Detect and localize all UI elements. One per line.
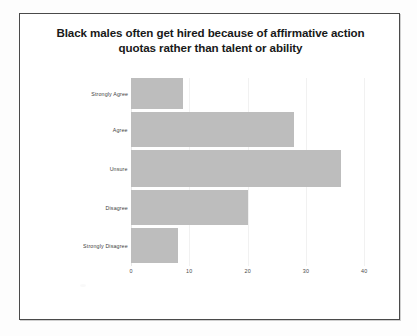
bar-row: Unsure [131, 150, 376, 187]
category-label: Agree [113, 126, 128, 132]
category-label: Strongly Agree [91, 90, 128, 96]
x-tick-label: 30 [303, 268, 309, 274]
bar-strongly-disagree[interactable] [131, 228, 178, 263]
x-tick-label: 10 [186, 268, 192, 274]
plot-area: Strongly Agree Agree Unsure Disagree Str… [131, 78, 376, 266]
scan-artifact [80, 284, 86, 287]
x-tick-label: 0 [129, 268, 132, 274]
category-label: Strongly Disagree [83, 242, 128, 248]
bar-row: Strongly Agree [131, 78, 376, 109]
bar-row: Agree [131, 112, 376, 147]
x-tick-label: 20 [244, 268, 250, 274]
x-axis: 0 10 20 30 40 [131, 268, 376, 280]
chart-title-line-1: Black males often get hired because of a… [32, 25, 389, 40]
x-tick-label: 40 [361, 268, 367, 274]
bar-disagree[interactable] [131, 190, 248, 225]
chart-title-line-2: quotas rather than talent or ability [32, 40, 389, 55]
bar-row: Strongly Disagree [131, 228, 376, 263]
bar-row: Disagree [131, 190, 376, 225]
bar-strongly-agree[interactable] [131, 78, 183, 109]
chart-title: Black males often get hired because of a… [32, 25, 389, 56]
category-label: Unsure [110, 165, 128, 171]
bar-agree[interactable] [131, 112, 294, 147]
category-label: Disagree [106, 204, 128, 210]
chart-frame: Black males often get hired because of a… [19, 13, 400, 320]
bar-unsure[interactable] [131, 150, 341, 187]
